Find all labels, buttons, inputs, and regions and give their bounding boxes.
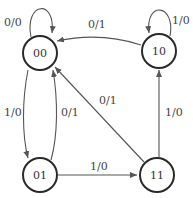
state-label-10: 10	[152, 45, 166, 58]
transition-10-00	[57, 37, 141, 45]
transition-01-00	[51, 70, 57, 160]
state-01: 01	[23, 158, 57, 192]
transition-00-00	[30, 9, 52, 37]
state-diagram: 0/0 0/1 1/0 1/0 0/1 0/1 1/0 1/0 00 10 01…	[0, 0, 193, 198]
transition-label-10-00: 0/1	[88, 18, 106, 31]
transition-label-11-00: 0/1	[99, 94, 117, 107]
state-label-00: 00	[33, 47, 47, 60]
transition-label-01-00: 0/1	[61, 106, 79, 119]
state-label-01: 01	[33, 169, 47, 182]
transition-label-10-10: 1/0	[172, 14, 190, 27]
transition-label-00-01: 1/0	[4, 106, 22, 119]
state-00: 00	[23, 36, 57, 70]
state-11: 11	[140, 158, 174, 192]
transition-00-01	[24, 70, 29, 158]
transition-10-10	[149, 10, 171, 36]
transition-label-00-00: 0/0	[4, 16, 22, 29]
state-10: 10	[142, 34, 176, 68]
state-label-11: 11	[150, 169, 164, 182]
transition-label-01-11: 1/0	[90, 160, 108, 173]
transition-label-11-10: 1/0	[165, 106, 183, 119]
